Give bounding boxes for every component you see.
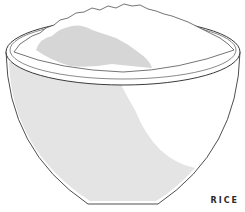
rice-label: RICE [211,196,239,205]
rice-bowl-illustration [0,0,245,212]
